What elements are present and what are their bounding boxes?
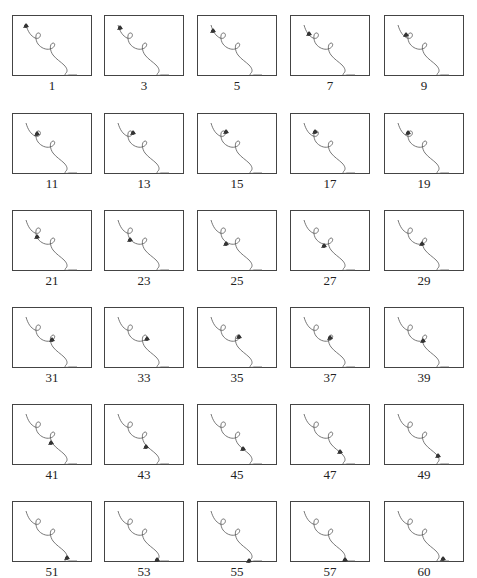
- marker-icon: [337, 449, 343, 454]
- trajectory-line: [118, 25, 169, 75]
- frame-box: [290, 404, 370, 465]
- frame-box: [290, 15, 370, 76]
- trajectory-line: [398, 25, 449, 75]
- frame-box: [12, 210, 92, 271]
- trajectory-plot: [13, 502, 93, 563]
- trajectory-line: [211, 317, 262, 367]
- frame-label: 35: [197, 370, 277, 386]
- frame-label: 55: [197, 564, 277, 578]
- frame-box: [384, 113, 464, 174]
- frame-label: 25: [197, 273, 277, 289]
- trajectory-line: [304, 220, 355, 270]
- frame-label: 33: [104, 370, 184, 386]
- trajectory-line: [304, 511, 355, 561]
- frame-label: 31: [12, 370, 92, 386]
- trajectory-plot: [105, 114, 185, 175]
- frame-label: 60: [384, 564, 464, 578]
- frame-box: [104, 210, 184, 271]
- trajectory-plot: [105, 211, 185, 272]
- trajectory-plot: [105, 405, 185, 466]
- trajectory-plot: [291, 502, 371, 563]
- trajectory-line: [118, 123, 169, 173]
- trajectory-line: [26, 511, 77, 561]
- frame-box: [12, 113, 92, 174]
- frame-label: 29: [384, 273, 464, 289]
- trajectory-line: [304, 25, 355, 75]
- trajectory-line: [211, 414, 262, 464]
- trajectory-line: [118, 414, 169, 464]
- trajectory-plot: [291, 405, 371, 466]
- frame-box: [12, 404, 92, 465]
- trajectory-plot: [385, 405, 465, 466]
- trajectory-plot: [198, 308, 278, 369]
- frame-label: 51: [12, 564, 92, 578]
- frame-label: 53: [104, 564, 184, 578]
- frame-box: [384, 210, 464, 271]
- trajectory-plot: [13, 308, 93, 369]
- frame-label: 41: [12, 467, 92, 483]
- frame-box: [384, 404, 464, 465]
- frame-box: [104, 15, 184, 76]
- frame-box: [197, 501, 277, 562]
- frame-box: [197, 404, 277, 465]
- trajectory-plot: [385, 211, 465, 272]
- frame-label: 57: [290, 564, 370, 578]
- frame-label: 23: [104, 273, 184, 289]
- trajectory-line: [26, 123, 77, 173]
- trajectory-line: [211, 25, 262, 75]
- frame-box: [384, 501, 464, 562]
- trajectory-plot: [198, 114, 278, 175]
- frame-label: 19: [384, 176, 464, 192]
- trajectory-plot: [13, 114, 93, 175]
- trajectory-plot: [105, 502, 185, 563]
- frame-box: [104, 501, 184, 562]
- frame-label: 45: [197, 467, 277, 483]
- frame-label: 9: [384, 78, 464, 94]
- trajectory-plot: [198, 16, 278, 77]
- trajectory-line: [211, 220, 262, 270]
- frame-box: [197, 113, 277, 174]
- marker-icon: [223, 129, 229, 134]
- frame-label: 15: [197, 176, 277, 192]
- trajectory-line: [26, 220, 77, 270]
- frame-box: [197, 15, 277, 76]
- trajectory-plot: [385, 16, 465, 77]
- trajectory-line: [118, 317, 169, 367]
- trajectory-plot: [105, 16, 185, 77]
- frame-box: [290, 210, 370, 271]
- frame-label: 5: [197, 78, 277, 94]
- marker-icon: [64, 555, 70, 560]
- frame-label: 39: [384, 370, 464, 386]
- trajectory-line: [118, 220, 169, 270]
- trajectory-line: [304, 317, 355, 367]
- marker-icon: [34, 234, 40, 239]
- trajectory-plot: [13, 16, 93, 77]
- marker-icon: [144, 336, 150, 341]
- trajectory-plot: [13, 211, 93, 272]
- trajectory-plot: [198, 502, 278, 563]
- trajectory-plot: [291, 308, 371, 369]
- trajectory-plot: [385, 114, 465, 175]
- marker-icon: [420, 338, 426, 343]
- trajectory-plot: [105, 308, 185, 369]
- trajectory-line: [398, 414, 449, 464]
- frame-box: [104, 307, 184, 368]
- trajectory-plot: [291, 16, 371, 77]
- marker-icon: [236, 334, 242, 339]
- frame-box: [197, 210, 277, 271]
- trajectory-plot: [291, 211, 371, 272]
- marker-icon: [23, 23, 29, 28]
- trajectory-line: [211, 123, 262, 173]
- frame-label: 37: [290, 370, 370, 386]
- frame-box: [290, 501, 370, 562]
- marker-icon: [312, 129, 318, 134]
- trajectory-line: [26, 414, 77, 464]
- frame-label: 3: [104, 78, 184, 94]
- frame-box: [290, 113, 370, 174]
- frame-label: 17: [290, 176, 370, 192]
- trajectory-line: [398, 511, 449, 561]
- frame-box: [104, 113, 184, 174]
- trajectory-line: [304, 123, 355, 173]
- frame-box: [12, 307, 92, 368]
- trajectory-plot: [291, 114, 371, 175]
